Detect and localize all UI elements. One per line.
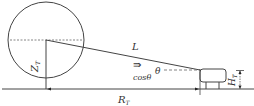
label-rt-sub: T [126,99,131,106]
ht-arrow-down-icon [239,86,242,90]
label-ht-group: HT [227,73,238,87]
diagram-canvas: L ZT θ ⇛ cosθ HT RT [0,0,254,106]
svg-text:ZT: ZT [29,60,41,73]
label-zt-sub: T [34,60,41,65]
slant-line-l [46,40,200,70]
arrow-icon: ⇛ [133,59,141,70]
label-ht: H [227,78,237,87]
label-zt-group: ZT [29,60,41,73]
label-l: L [131,41,139,52]
label-rt-group: RT [117,94,131,106]
label-cos-theta: cosθ [133,73,151,82]
geometry-diagram: L ZT θ ⇛ cosθ HT RT [0,0,254,106]
receiver-body [200,69,226,82]
label-ht-sub: T [231,73,238,78]
ht-arrow-up-icon [239,71,242,75]
rt-arrow-right-icon [195,88,199,91]
svg-text:HT: HT [227,73,238,87]
rt-arrow-left-icon [47,88,51,91]
label-theta: θ [155,66,161,76]
